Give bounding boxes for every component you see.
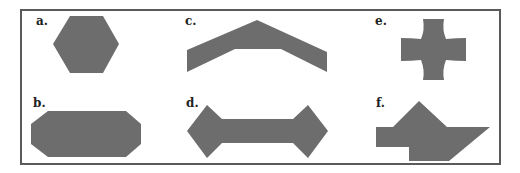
shape-e-cross <box>401 19 466 80</box>
shape-d-bone <box>187 105 328 158</box>
panel-label-b: b. <box>33 97 46 109</box>
shape-f-polygon <box>376 101 490 161</box>
shapes-canvas <box>0 0 520 173</box>
panel-label-f: f. <box>376 97 385 109</box>
shape-c-chevron <box>187 20 327 72</box>
shape-b-octagon <box>31 111 141 157</box>
panel-label-e: e. <box>375 15 387 27</box>
panel-label-d: d. <box>186 97 199 109</box>
panel-label-c: c. <box>185 15 196 27</box>
panel-label-a: a. <box>36 15 48 27</box>
shape-a-hexagon <box>53 16 119 73</box>
